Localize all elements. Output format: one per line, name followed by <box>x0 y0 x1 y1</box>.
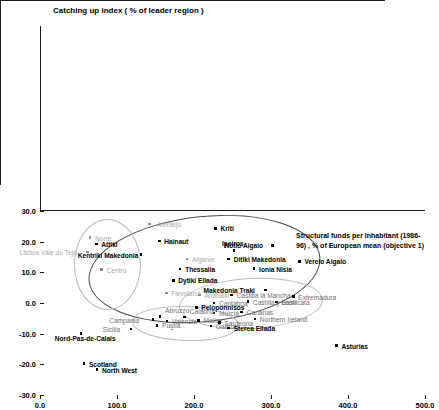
data-point-marker <box>100 268 103 271</box>
data-point-marker <box>253 267 256 270</box>
y-tick-label: 30.0 <box>0 207 36 216</box>
y-tick-mark <box>40 364 44 365</box>
y-tick-label: -10.0 <box>0 330 36 339</box>
data-point-label: Algarve <box>192 256 214 263</box>
y-tick-label: 0.0 <box>0 299 36 308</box>
data-point-marker <box>240 311 243 314</box>
data-point-marker <box>172 279 175 282</box>
data-point-marker <box>218 321 221 324</box>
y-tick-mark <box>40 211 44 212</box>
data-point-label: Abruzzo <box>165 307 189 314</box>
y-tick-label: 10.0 <box>0 268 36 277</box>
x-tick-label: 0.0 <box>17 401 63 410</box>
portugal-ellipse <box>74 219 141 310</box>
data-point-marker <box>96 368 99 371</box>
data-point-label: Ditiki Makedonia <box>234 256 286 263</box>
data-point-label: Alentejo <box>157 221 181 228</box>
data-point-label: Asturias <box>341 343 367 350</box>
x-tick-mark <box>425 395 426 399</box>
x-tick-label: 400.0 <box>325 401 371 410</box>
data-point-marker <box>89 236 92 239</box>
x-tick-mark <box>194 395 195 399</box>
data-point-marker <box>158 240 161 243</box>
x-tick-mark <box>271 395 272 399</box>
x-tick-label: 500.0 <box>402 401 439 410</box>
data-point-marker <box>179 268 182 271</box>
data-point-label: Campania <box>109 317 139 324</box>
data-point-marker <box>95 243 98 246</box>
data-point-label: Kriti <box>221 225 234 232</box>
x-axis-caption: Structural funds per inhabitant (1986-96… <box>296 231 428 250</box>
data-point-label: Hainaut <box>164 238 188 245</box>
data-point-label: Anatoliki <box>204 292 229 299</box>
data-point-label: Northern Ireland <box>260 316 308 323</box>
data-point-marker <box>152 318 155 321</box>
y-tick-label: -20.0 <box>0 360 36 369</box>
y-tick-label: 20.0 <box>0 238 36 247</box>
data-point-marker <box>271 244 274 247</box>
data-point-label: Murcia <box>219 310 239 317</box>
data-point-marker <box>80 332 83 335</box>
data-point-label: Thessalia <box>185 266 215 273</box>
data-point-marker <box>197 319 200 322</box>
data-point-label: Nord-Pas-de-Calais <box>55 335 116 342</box>
data-point-marker <box>335 344 338 347</box>
data-point-label: Sicilia <box>103 326 120 333</box>
x-tick-mark <box>40 395 41 399</box>
data-point-marker <box>148 223 151 226</box>
data-point-marker <box>254 318 257 321</box>
x-tick-label: 300.0 <box>248 401 294 410</box>
y-tick-mark <box>40 272 44 273</box>
x-tick-label: 100.0 <box>94 401 140 410</box>
y-tick-mark <box>40 334 44 335</box>
data-point-marker <box>292 295 295 298</box>
data-point-marker <box>130 328 133 331</box>
data-point-label: Calabria <box>190 308 215 315</box>
data-point-marker <box>186 258 189 261</box>
data-point-label: Ionia Nisia <box>259 266 292 273</box>
data-point-label: Dytiki Ellada <box>178 277 217 284</box>
data-point-marker <box>227 258 230 261</box>
data-point-label: North West <box>102 367 137 374</box>
chart-title: Catching up index ( % of leader region ) <box>53 6 204 15</box>
data-point-label: Puglia <box>162 322 180 329</box>
y-tick-label: -30.0 <box>0 391 36 400</box>
data-point-marker <box>247 300 250 303</box>
data-point-marker <box>198 294 201 297</box>
data-point-marker <box>230 294 233 297</box>
data-point-marker <box>83 362 86 365</box>
data-point-label: Centro <box>107 267 127 274</box>
data-point-label: Vereio Aigaio <box>304 258 346 265</box>
x-100-reference-line <box>0 1 1 185</box>
x-tick-label: 200.0 <box>171 401 217 410</box>
data-point-label: Notio Aigaio <box>225 242 264 249</box>
data-point-label: Canarias <box>247 309 273 316</box>
y-tick-mark <box>40 303 44 304</box>
data-point-label: Flevoland <box>171 290 200 297</box>
data-point-marker <box>214 227 217 230</box>
y-zero-line <box>0 0 385 1</box>
data-point-label: Castilla y Leon <box>253 299 296 306</box>
data-point-marker <box>165 292 168 295</box>
data-point-marker <box>264 289 267 292</box>
data-point-label: Lisboa Vale do Tejo <box>20 249 77 256</box>
data-point-label: Attiki <box>101 241 117 248</box>
data-point-marker <box>298 260 301 263</box>
x-tick-mark <box>117 395 118 399</box>
y-tick-mark <box>40 242 44 243</box>
y-axis-line <box>40 26 41 210</box>
data-point-marker <box>156 324 159 327</box>
data-point-marker <box>210 325 213 328</box>
x-tick-mark <box>348 395 349 399</box>
data-point-label: Kentriki Makedonia <box>78 252 138 259</box>
x-axis-line <box>40 210 425 211</box>
data-point-marker <box>140 253 143 256</box>
data-point-label: Sardegna <box>224 320 253 327</box>
data-point-marker <box>159 315 162 318</box>
